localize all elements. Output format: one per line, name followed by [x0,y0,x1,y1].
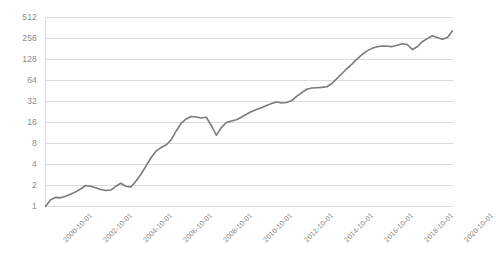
y-axis-tick-label: 32 [3,97,37,106]
y-axis-tick-label: 256 [3,34,37,43]
y-axis-tick-label: 4 [3,160,37,169]
y-axis-tick-label: 1 [3,202,37,211]
y-axis-tick-label: 64 [3,76,37,85]
y-axis-tick-label: 2 [3,181,37,190]
data-series-line [46,31,453,207]
y-axis-tick-label: 128 [3,55,37,64]
x-axis-tick-label: 2020-10-01 [463,211,496,244]
y-axis-tick-label: 512 [3,13,37,22]
y-axis-tick-label: 8 [3,139,37,148]
y-axis-tick-label: 16 [3,118,37,127]
